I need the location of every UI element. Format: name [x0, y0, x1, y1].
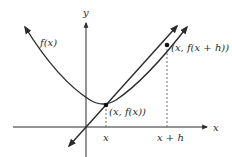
point-x-fx-label: (x, f(x)): [109, 106, 146, 117]
x-axis-label: x: [213, 122, 219, 133]
diagram-canvas: x y f(x) (x, f(x)) (x, f(x + h)) x x + h: [0, 0, 232, 157]
point-xh-fxh: [165, 43, 170, 48]
secant-line-diagram: x y f(x) (x, f(x)) (x, f(x + h)) x x + h: [0, 0, 232, 157]
point-x-fx: [104, 103, 109, 108]
tick-label-x: x: [103, 132, 109, 143]
point-xh-fxh-label: (x, f(x + h)): [171, 42, 229, 53]
secant-line: [69, 26, 177, 146]
y-axis-label: y: [82, 7, 89, 18]
tick-label-x-plus-h: x + h: [157, 132, 184, 143]
curve-label: f(x): [39, 37, 57, 48]
